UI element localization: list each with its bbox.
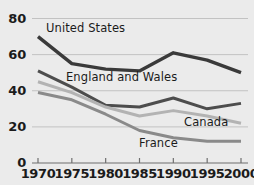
series-label-canada: Canada — [184, 115, 228, 129]
series-label-united-states: United States — [46, 21, 125, 35]
chart-plot-area — [0, 0, 254, 185]
y-axis-tick-label: 80 — [0, 11, 26, 26]
series-label-england-and-wales: England and Wales — [66, 70, 177, 84]
series-label-france: France — [139, 136, 178, 150]
x-axis-tick-label: 2000 — [221, 166, 254, 181]
y-axis-tick-label: 40 — [0, 83, 26, 98]
chart-container: 020406080 1970197519801985199019952000 U… — [0, 0, 254, 185]
x-axis-ticks — [38, 158, 241, 163]
y-axis-tick-label: 20 — [0, 119, 26, 134]
y-axis-tick-label: 60 — [0, 47, 26, 62]
